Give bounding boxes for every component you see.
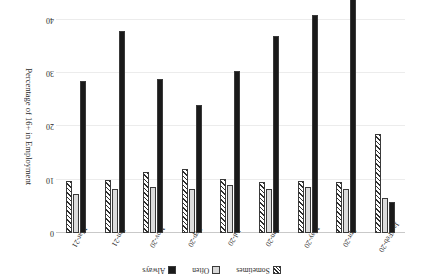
value-tick-label: 10 (38, 176, 54, 184)
bar-often[interactable] (266, 189, 272, 233)
value-tick-label: 0 (38, 229, 54, 237)
chart-legend: Sometimes Often Always (0, 266, 423, 275)
category-label: May-20 (290, 235, 326, 259)
bar-always[interactable] (157, 79, 163, 233)
legend-label-sometimes: Sometimes (236, 266, 269, 275)
category-label: Jul-20 (213, 235, 249, 259)
category-label: Jun-20 (251, 235, 287, 259)
plot-area (56, 20, 405, 233)
bar-sometimes[interactable] (105, 180, 111, 233)
legend-item-often[interactable]: Often (192, 266, 220, 275)
value-tick-label: 30 (38, 69, 54, 77)
bar-groups (56, 20, 405, 233)
bar-sometimes[interactable] (259, 182, 265, 233)
category-label: Sep-20 (174, 235, 210, 259)
legend-item-always[interactable]: Always (142, 266, 176, 275)
bar-sometimes[interactable] (375, 135, 381, 234)
bar-always[interactable] (273, 36, 279, 233)
bar-often[interactable] (150, 187, 156, 233)
bar-often[interactable] (305, 187, 311, 233)
bar-often[interactable] (73, 194, 79, 233)
legend-label-always: Always (142, 266, 165, 275)
bar-always[interactable] (389, 202, 395, 233)
bar-sometimes[interactable] (143, 172, 149, 233)
bar-group (251, 20, 287, 233)
dotted-swatch-icon (212, 267, 220, 275)
bar-often[interactable] (112, 189, 118, 233)
bar-group (135, 20, 171, 233)
value-tick-label: 20 (38, 123, 54, 131)
value-axis-title: Percentage of 16+ in Employment (24, 20, 34, 233)
bar-group (213, 20, 249, 233)
legend-item-sometimes[interactable]: Sometimes (236, 266, 280, 275)
bar-group (328, 20, 364, 233)
bar-always[interactable] (119, 31, 125, 233)
bar-group (174, 20, 210, 233)
bar-sometimes[interactable] (66, 181, 72, 233)
bar-group (290, 20, 326, 233)
hatch-swatch-icon (273, 267, 281, 275)
category-label: Jan-21 (97, 235, 133, 259)
bar-often[interactable] (228, 185, 234, 233)
bar-sometimes[interactable] (182, 169, 188, 233)
chart-figure: Sometimes Often Always Jan/Feb-20Apr-20M… (0, 0, 423, 277)
bar-group (97, 20, 133, 233)
category-label: Jan/Feb-20 (367, 235, 403, 259)
bar-group (58, 20, 94, 233)
bar-sometimes[interactable] (298, 181, 304, 233)
bar-always[interactable] (80, 81, 86, 233)
bar-always[interactable] (196, 105, 202, 233)
category-axis: Jan/Feb-20Apr-20May-20Jun-20Jul-20Sep-20… (56, 235, 405, 259)
value-tick-label: 40 (38, 16, 54, 24)
category-label: Nov-20 (135, 235, 171, 259)
category-label: Apr-20 (328, 235, 364, 259)
bar-sometimes[interactable] (336, 182, 342, 233)
legend-label-often: Often (192, 266, 209, 275)
bar-group (367, 20, 403, 233)
solid-swatch-icon (168, 267, 176, 275)
bar-always[interactable] (312, 15, 318, 233)
bar-sometimes[interactable] (221, 179, 227, 233)
bar-often[interactable] (382, 198, 388, 233)
category-label: Mar-21 (58, 235, 94, 259)
bar-often[interactable] (343, 189, 349, 233)
bar-often[interactable] (189, 189, 195, 233)
value-axis: 010203040 Percentage of 16+ in Employmen… (0, 20, 54, 233)
bar-always[interactable] (350, 0, 356, 233)
bar-always[interactable] (235, 71, 241, 233)
